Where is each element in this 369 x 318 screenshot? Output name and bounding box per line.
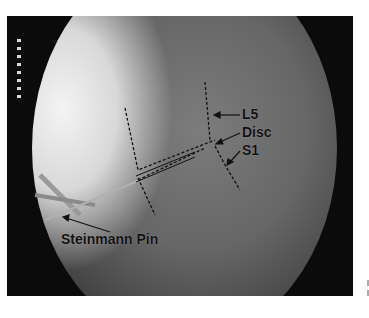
label-l5: L5 — [242, 106, 258, 122]
annotation-overlay — [0, 0, 369, 318]
label-s1: S1 — [242, 142, 259, 158]
label-disc: Disc — [242, 124, 272, 140]
label-steinmann-pin: Steinmann Pin — [61, 231, 158, 247]
